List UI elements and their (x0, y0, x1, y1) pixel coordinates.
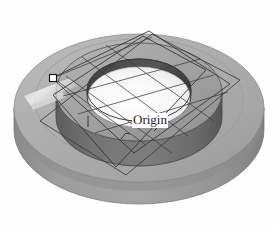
origin-label: Origin (132, 113, 168, 128)
model-viewport[interactable]: Origin (0, 0, 278, 227)
plane-vertex-handle[interactable] (50, 75, 57, 82)
vertex-handle-marker[interactable] (50, 75, 57, 82)
